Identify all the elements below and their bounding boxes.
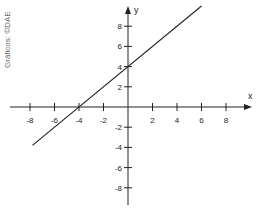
y-tick-label: -2 (115, 123, 123, 132)
x-axis-arrow-icon (244, 104, 252, 110)
x-tick-label: -6 (51, 116, 59, 125)
y-tick-label: 2 (118, 83, 123, 92)
y-tick-label: 8 (118, 22, 123, 31)
x-tick-label: -2 (100, 116, 108, 125)
x-tick-label: -4 (75, 116, 83, 125)
y-tick-label: -4 (115, 143, 123, 152)
y-tick-label: -8 (115, 184, 123, 193)
y-axis-label: y (134, 5, 139, 15)
x-tick-label: 2 (150, 116, 155, 125)
y-tick-label: 4 (118, 63, 123, 72)
coordinate-plane: xy-8-6-4-22468-8-6-4-22468 (0, 0, 258, 208)
x-tick-label: 6 (199, 116, 204, 125)
x-axis-label: x (248, 91, 253, 101)
x-tick-label: 8 (224, 116, 229, 125)
y-tick-label: -6 (115, 164, 123, 173)
x-tick-label: -8 (26, 116, 34, 125)
y-tick-label: 6 (118, 42, 123, 51)
x-tick-label: 4 (175, 116, 180, 125)
y-axis-arrow-icon (125, 6, 131, 14)
